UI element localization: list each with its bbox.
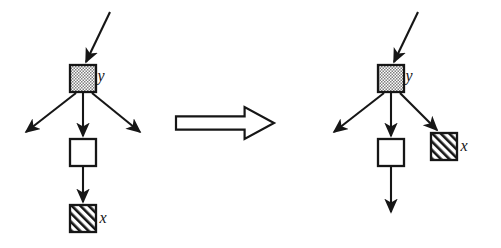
node-x-left[interactable]: x	[70, 205, 107, 232]
node-box-stippled	[378, 65, 404, 92]
node-label-y: y	[403, 67, 413, 85]
edge-y-left-to-se	[92, 93, 140, 132]
diagram-canvas: yx yx	[0, 0, 501, 248]
node-box-white	[378, 139, 404, 166]
edge-in-y-left	[86, 12, 110, 62]
node-mid-right[interactable]	[378, 139, 404, 166]
node-mid-left[interactable]	[70, 139, 96, 166]
edge-y-right-to-sw	[334, 93, 384, 132]
node-box-hatched	[70, 205, 96, 232]
node-label-x: x	[98, 209, 106, 226]
node-y-left[interactable]: y	[70, 65, 105, 92]
node-box-white	[70, 139, 96, 166]
node-label-x: x	[459, 137, 467, 154]
node-x-right[interactable]: x	[431, 133, 468, 160]
edge-y-left-to-sw	[26, 93, 76, 132]
edge-y-right-to-x	[400, 93, 437, 130]
node-box-stippled	[70, 65, 96, 92]
right-graph: yx	[334, 12, 468, 212]
graph-rewrite-figure: yx yx	[0, 0, 501, 248]
double-right-arrow-icon	[176, 107, 274, 139]
edge-in-y-right	[394, 12, 418, 62]
node-box-hatched	[431, 133, 457, 160]
node-y-right[interactable]: y	[378, 65, 413, 92]
implies-arrow-icon	[176, 107, 274, 139]
node-label-y: y	[95, 67, 105, 85]
left-graph: yx	[26, 12, 140, 232]
